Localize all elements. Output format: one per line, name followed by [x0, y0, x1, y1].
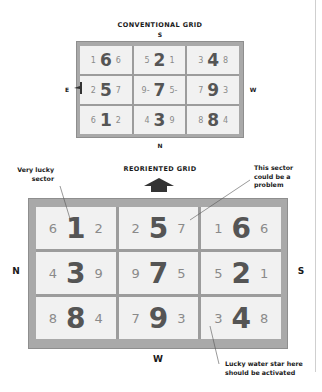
- leader-lines: [0, 0, 322, 392]
- leader-problem: [190, 180, 250, 220]
- leader-very-lucky: [60, 186, 71, 222]
- leader-water-star: [210, 326, 219, 364]
